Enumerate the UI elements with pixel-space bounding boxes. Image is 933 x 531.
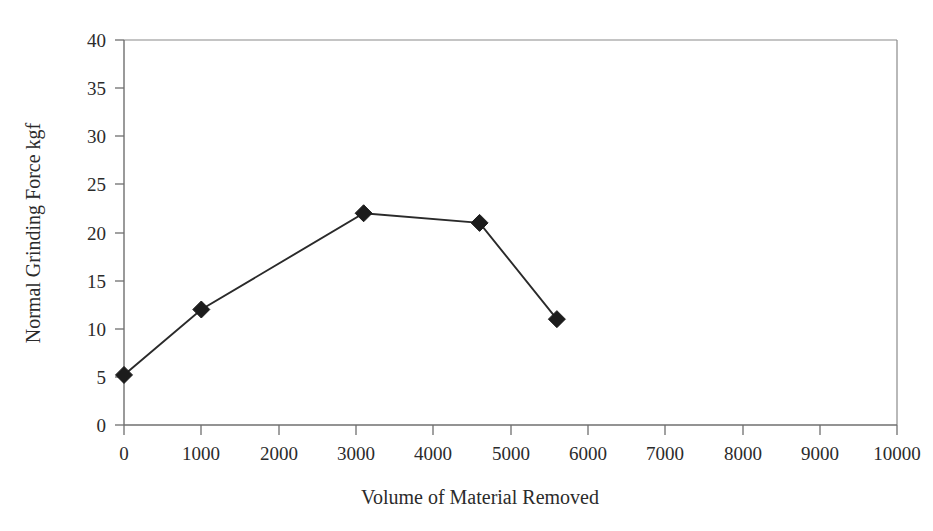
y-tick-label: 15: [87, 271, 106, 292]
x-tick-label: 9000: [801, 443, 839, 464]
y-tick-label: 20: [87, 223, 106, 244]
plot-frame: [124, 40, 897, 425]
y-tick-label: 30: [87, 126, 106, 147]
y-axis-title: Normal Grinding Force kgf: [22, 122, 45, 343]
x-tick-label: 5000: [492, 443, 530, 464]
y-axis: 40 35 30 25 20 15 10 5 0 Normal Grinding…: [22, 30, 124, 436]
x-tick-label: 0: [119, 443, 129, 464]
y-tick-label: 5: [97, 367, 107, 388]
x-tick-label: 10000: [873, 443, 921, 464]
chart-figure: 40 35 30 25 20 15 10 5 0 Normal Grinding…: [0, 0, 933, 531]
x-tick-label: 4000: [414, 443, 452, 464]
x-tick-label: 1000: [182, 443, 220, 464]
y-axis-tick-labels: 40 35 30 25 20 15 10 5 0: [87, 30, 106, 436]
x-tick-label: 8000: [724, 443, 762, 464]
data-series-grinding-force: [116, 205, 566, 384]
line-chart: 40 35 30 25 20 15 10 5 0 Normal Grinding…: [0, 0, 933, 531]
y-tick-label: 25: [87, 174, 106, 195]
x-axis-tick-labels: 0 1000 2000 3000 4000 5000 6000 7000 800…: [119, 443, 921, 464]
y-tick-label: 35: [87, 78, 106, 99]
series-line: [124, 213, 557, 375]
x-tick-label: 7000: [646, 443, 684, 464]
y-tick-label: 0: [97, 415, 107, 436]
x-tick-label: 2000: [260, 443, 298, 464]
x-axis-ticks: [124, 425, 897, 435]
x-axis: 0 1000 2000 3000 4000 5000 6000 7000 800…: [119, 425, 921, 508]
x-tick-label: 3000: [337, 443, 375, 464]
x-tick-label: 6000: [569, 443, 607, 464]
series-markers: [116, 205, 566, 384]
y-tick-label: 40: [87, 30, 106, 51]
data-point-marker: [355, 205, 372, 222]
x-axis-title: Volume of Material Removed: [361, 486, 599, 508]
y-tick-label: 10: [87, 319, 106, 340]
